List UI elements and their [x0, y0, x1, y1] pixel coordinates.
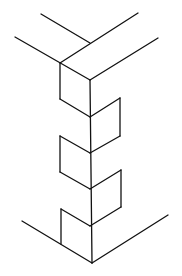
notch1-right-bottom — [90, 136, 120, 153]
center-vertical-edge — [90, 80, 92, 263]
notch2-right-bottom — [90, 207, 121, 226]
notch2-left-top — [60, 136, 90, 153]
top-back-left-edge — [41, 14, 90, 43]
base-right-edge — [92, 215, 168, 263]
diagram-svg — [0, 0, 182, 276]
notch1-left-diagonal — [60, 99, 90, 117]
top-back-right-edge — [60, 13, 138, 63]
notch1-right-diagonal — [90, 98, 120, 117]
top-front-right-edge — [90, 38, 158, 80]
notch2-left-diagonal — [60, 172, 90, 189]
top-front-left-edge — [15, 37, 90, 80]
notch3-left-top — [61, 209, 90, 226]
isometric-joint-diagram — [0, 0, 182, 276]
notch2-right-diagonal — [90, 170, 121, 189]
base-left-edge — [22, 221, 92, 263]
